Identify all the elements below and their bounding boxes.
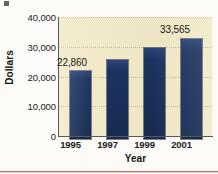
- x-axis-title: Year: [59, 153, 212, 164]
- gridline-40000: [59, 17, 212, 18]
- page-bottom-rule-secondary: [0, 172, 218, 173]
- scan-artifact-mark: [4, 1, 9, 6]
- y-axis-line: [58, 17, 59, 137]
- y-tick-label-10000: 10,000: [2, 101, 56, 112]
- data-label-2001: 33,565: [160, 24, 190, 35]
- bar-chart-figure: 40,000 30,000 20,000 10,000 0 1995 1997 …: [0, 0, 218, 174]
- y-tick-label-40000: 40,000: [2, 12, 56, 23]
- bar-2001: [181, 39, 202, 139]
- data-label-1995: 22,860: [57, 57, 87, 68]
- y-axis-title: Dollars: [4, 38, 15, 98]
- bar-1995: [70, 71, 91, 139]
- x-axis-line: [58, 136, 213, 137]
- bar-1999: [144, 48, 165, 139]
- x-tick-label-2001: 2001: [159, 139, 204, 150]
- bar-1997: [107, 60, 128, 139]
